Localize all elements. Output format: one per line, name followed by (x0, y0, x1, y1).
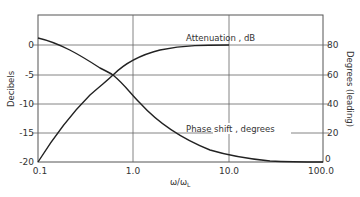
left-y-ticks: 0 -5 -10 -15 -20 (19, 40, 34, 167)
right-y-ticks: 80 60 40 20 0 (325, 40, 339, 164)
h-gridlines (32, 45, 329, 133)
svg-text:-10: -10 (19, 99, 34, 109)
svg-text:40: 40 (327, 99, 339, 109)
svg-text:10.0: 10.0 (219, 166, 239, 176)
svg-text:0.1: 0.1 (33, 166, 47, 176)
svg-text:-15: -15 (19, 128, 34, 138)
svg-text:-5: -5 (25, 70, 34, 80)
svg-text:20: 20 (327, 128, 339, 138)
svg-text:80: 80 (327, 40, 339, 50)
x-ticks: 0.1 1.0 10.0 100.0 (33, 166, 334, 176)
attenuation-label: Attenuation , dB (186, 33, 255, 43)
svg-text:100.0: 100.0 (308, 166, 334, 176)
bode-chart: Attenuation , dB Phase shift , degrees 0… (0, 0, 360, 197)
svg-text:0: 0 (28, 40, 34, 50)
attenuation-curve (38, 45, 229, 162)
phase-label: Phase shift , degrees (186, 124, 275, 134)
y2-axis-title: Degrees (leading) (345, 51, 355, 127)
plot-frame (38, 15, 323, 162)
svg-text:1.0: 1.0 (126, 166, 141, 176)
svg-text:0: 0 (325, 154, 331, 164)
svg-text:60: 60 (327, 70, 339, 80)
phase-curve (38, 38, 323, 162)
y-axis-title: Decibels (6, 70, 16, 107)
x-axis-title: ω/ωL (170, 177, 191, 188)
